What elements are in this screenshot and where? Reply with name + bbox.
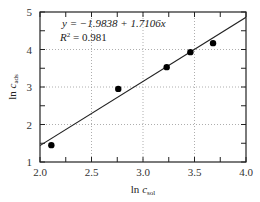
x-axis-label: ln csol [131, 183, 155, 197]
y-tick-label: 1 [27, 156, 33, 168]
x-tick-label: 3.5 [188, 166, 202, 178]
y-axis-label: ln cads [6, 74, 20, 100]
data-point [187, 49, 193, 55]
r2-annotation: R2 = 0.981 [59, 31, 107, 43]
data-point [48, 142, 54, 148]
y-tick-labels: 12345 [27, 6, 33, 168]
data-points [48, 40, 216, 148]
y-tick-label: 2 [27, 119, 33, 131]
y-tick-label: 3 [27, 81, 33, 93]
y-tick-label: 4 [27, 44, 33, 56]
x-tick-label: 3.0 [136, 166, 150, 178]
data-point [115, 86, 121, 92]
x-tick-labels: 2.02.53.03.54.0 [33, 166, 253, 178]
scatter-chart: 2.02.53.03.54.0 12345 y = −1.9838 + 1.71… [0, 0, 260, 202]
y-tick-label: 5 [27, 6, 33, 18]
x-tick-label: 4.0 [239, 166, 253, 178]
equation-annotation: y = −1.9838 + 1.7106x [61, 17, 166, 29]
x-tick-label: 2.5 [85, 166, 99, 178]
data-point [210, 40, 216, 46]
data-point [163, 64, 169, 70]
x-tick-label: 2.0 [33, 166, 47, 178]
